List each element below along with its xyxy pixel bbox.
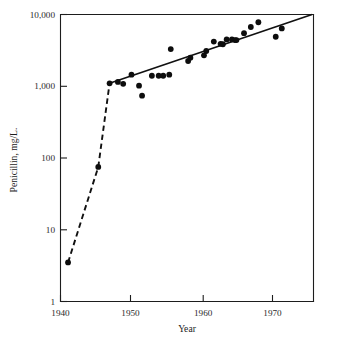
data-point xyxy=(273,34,279,40)
y-tick-label-100: 100 xyxy=(41,153,55,163)
data-point xyxy=(149,73,155,79)
data-point xyxy=(220,41,226,47)
data-point xyxy=(188,55,194,61)
data-point xyxy=(168,46,174,52)
y-tick-label-1: 1 xyxy=(50,297,55,307)
x-tick-label-1940: 1940 xyxy=(51,308,70,318)
y-tick-label-10: 10 xyxy=(46,225,56,235)
data-point xyxy=(107,80,113,86)
data-point xyxy=(115,79,121,85)
data-point xyxy=(65,260,71,266)
data-point xyxy=(166,72,172,78)
y-axis-title: Penicillin, mg/L. xyxy=(8,128,19,193)
data-point xyxy=(255,19,261,25)
x-tick-label-1950: 1950 xyxy=(121,308,140,318)
data-point xyxy=(120,81,126,87)
data-point xyxy=(224,36,230,42)
x-tick-label-1970: 1970 xyxy=(263,308,282,318)
data-point xyxy=(139,93,145,99)
data-point xyxy=(241,30,247,36)
chart-figure: 10,000 1,000 100 10 1 1940 1950 1960 197… xyxy=(0,0,338,340)
y-tick-label-10000: 10,000 xyxy=(30,10,56,20)
data-point xyxy=(279,26,285,32)
data-point xyxy=(203,48,209,54)
data-point xyxy=(248,24,254,30)
data-point xyxy=(95,164,101,170)
x-tick-label-1960: 1960 xyxy=(194,308,213,318)
data-point xyxy=(211,39,217,45)
x-axis-title: Year xyxy=(178,323,196,334)
data-point xyxy=(136,83,142,89)
penicillin-yield-scatter-chart: 10,000 1,000 100 10 1 1940 1950 1960 197… xyxy=(0,0,338,340)
data-point xyxy=(160,73,166,79)
data-point xyxy=(129,72,135,78)
y-tick-label-1000: 1,000 xyxy=(34,81,55,91)
data-point xyxy=(234,37,240,43)
